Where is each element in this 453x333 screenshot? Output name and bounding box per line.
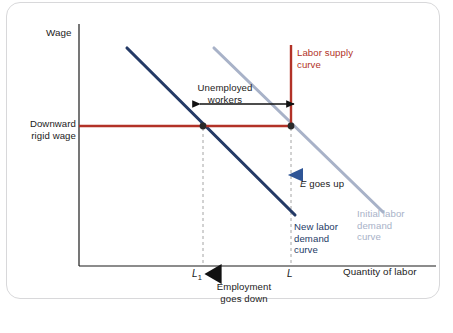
y-axis-label: Wage — [46, 27, 72, 39]
e-goes-up-text: goes up — [307, 178, 345, 189]
x-tick-l: L — [287, 268, 293, 280]
equilibrium-dot-original — [288, 123, 295, 130]
initial-labor-demand-curve — [214, 48, 383, 212]
unemployed-workers-label: Unemployed workers — [182, 82, 268, 105]
downward-rigid-wage-label: Downward rigid wage — [6, 118, 76, 141]
employment-goes-down-label: Employment goes down — [198, 281, 290, 304]
initial-labor-demand-curve-label: Initial labor demand curve — [357, 208, 427, 243]
x-axis-label: Quantity of labor — [343, 266, 417, 278]
equilibrium-dot-new — [200, 123, 207, 130]
figure-card: Wage Quantity of labor Downward rigid wa… — [0, 0, 453, 333]
e-goes-up-label: E goes up — [300, 178, 344, 190]
new-labor-demand-curve-label: New labor demand curve — [294, 221, 356, 256]
new-labor-demand-curve — [127, 48, 295, 215]
labor-supply-curve-label: Labor supply curve — [297, 47, 379, 70]
